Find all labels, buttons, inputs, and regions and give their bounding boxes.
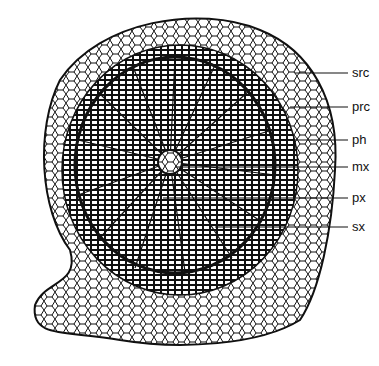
primary-xylem [158,150,182,174]
label-mx: mx [352,160,369,173]
label-sx: sx [352,220,365,233]
root-cross-section-drawing [0,0,379,366]
label-prc: prc [352,100,370,113]
label-ph: ph [352,133,366,146]
label-src: src [352,66,369,79]
label-px: px [352,191,366,204]
